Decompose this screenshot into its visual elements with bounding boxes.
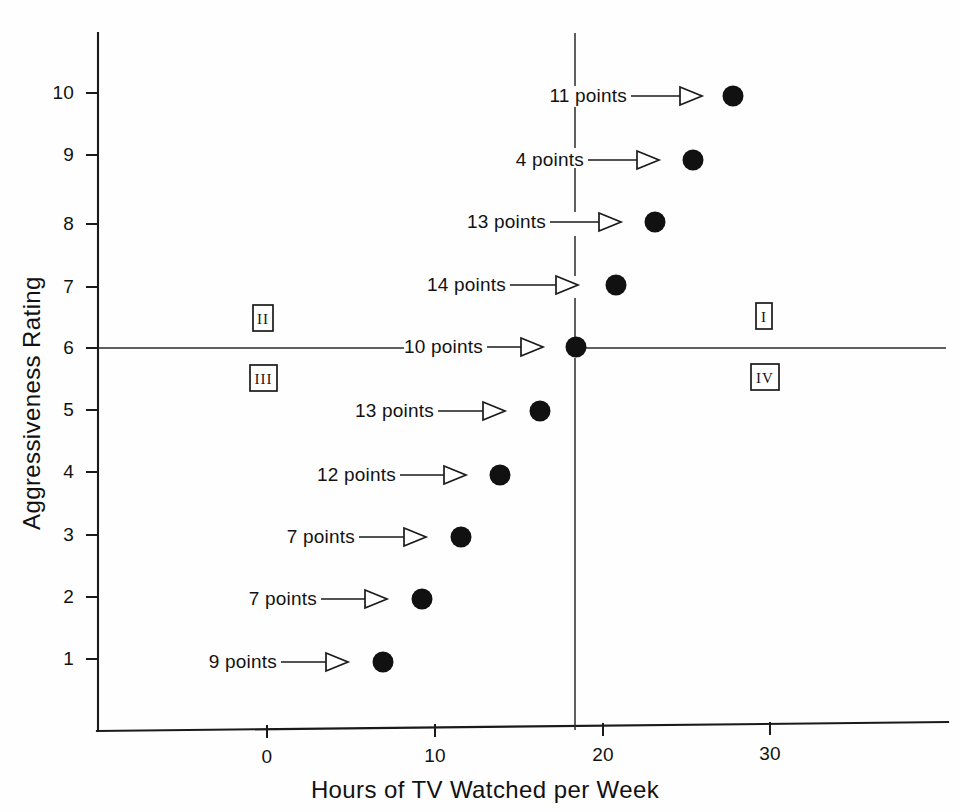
x-tick-label-10: 10 <box>405 745 465 767</box>
data-points <box>373 86 744 673</box>
data-point <box>645 212 666 233</box>
plot-canvas <box>0 0 960 812</box>
annotation-label-rating-2: 7 points <box>121 588 317 610</box>
annotation-label-rating-1: 9 points <box>81 651 277 673</box>
x-axis-line <box>97 722 948 731</box>
y-axis-ticks <box>86 93 98 659</box>
y-tick-label-9: 9 <box>22 144 74 166</box>
y-tick-label-8: 8 <box>22 213 74 235</box>
annotation-label-rating-9: 4 points <box>388 149 584 171</box>
quadrant-label-three: III <box>250 371 277 388</box>
quadrant-label-two: II <box>253 311 273 328</box>
data-point <box>373 652 394 673</box>
data-point <box>412 589 433 610</box>
data-point <box>723 86 744 107</box>
data-point <box>451 527 472 548</box>
data-point <box>606 275 627 296</box>
data-point <box>566 337 587 358</box>
x-tick-label-30: 30 <box>740 743 800 765</box>
annotation-label-rating-3: 7 points <box>159 526 355 548</box>
annotation-label-rating-8: 13 points <box>350 211 546 233</box>
y-tick-label-2: 2 <box>22 586 74 608</box>
quadrant-label-four: IV <box>751 370 779 387</box>
y-tick-label-10: 10 <box>22 82 74 104</box>
x-tick-label-20: 20 <box>573 744 633 766</box>
data-point <box>530 401 551 422</box>
data-point <box>683 150 704 171</box>
scatter-plot-figure: 10 9 8 7 6 5 4 3 2 1 0 10 20 30 Hours of… <box>0 0 960 812</box>
data-point <box>490 465 511 486</box>
annotation-arrows <box>281 87 702 671</box>
quadrant-label-one: I <box>756 309 772 326</box>
x-axis-title: Hours of TV Watched per Week <box>235 776 735 804</box>
annotation-label-rating-4: 12 points <box>200 464 396 486</box>
y-tick-label-1: 1 <box>22 648 74 670</box>
x-tick-label-0: 0 <box>237 746 297 768</box>
annotation-label-rating-7: 14 points <box>310 274 506 296</box>
annotation-label-rating-10: 11 points <box>431 85 627 107</box>
y-axis-title: Aggressiveness Rating <box>18 276 46 530</box>
annotation-label-rating-6: 10 points <box>287 336 483 358</box>
annotation-label-rating-5: 13 points <box>238 400 434 422</box>
